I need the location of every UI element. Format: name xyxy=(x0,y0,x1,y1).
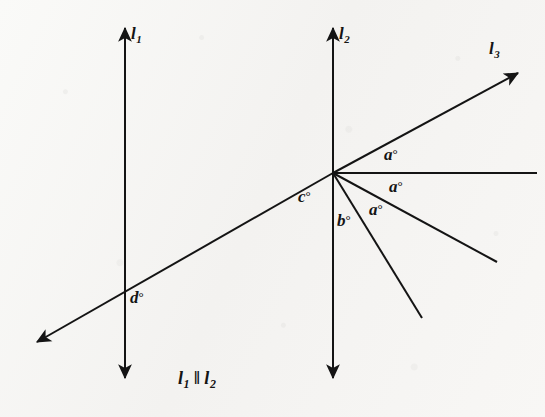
angle-a-middle-letter: a xyxy=(389,177,398,196)
l2-label-sub: 2 xyxy=(344,33,350,45)
geometry-figure: l1 l2 l3 a° a° a° b° c° d° l1‖l2 xyxy=(0,0,545,417)
degree-symbol: ° xyxy=(378,201,383,216)
degree-symbol: ° xyxy=(398,178,403,193)
angle-b-letter: b xyxy=(337,211,346,230)
angle-a-middle-label: a° xyxy=(389,178,403,195)
angle-a-upper-letter: a xyxy=(384,145,393,164)
angle-c-label: c° xyxy=(298,188,311,205)
angle-b-label: b° xyxy=(337,212,351,229)
ray-lower-steep xyxy=(333,173,422,318)
l3-label: l3 xyxy=(489,40,500,60)
l1-label: l1 xyxy=(131,25,142,45)
angle-d-label: d° xyxy=(130,289,144,306)
l3-label-sub: 3 xyxy=(494,48,500,60)
degree-symbol: ° xyxy=(306,188,311,203)
ray-lower-shallow xyxy=(333,173,497,262)
parallel-caption: l1‖l2 xyxy=(178,368,216,392)
caption-right-sub: 2 xyxy=(210,377,217,391)
geometry-canvas xyxy=(0,0,545,417)
degree-symbol: ° xyxy=(139,289,144,304)
transversal-lower-left xyxy=(37,173,333,342)
ray-l3 xyxy=(333,73,518,173)
angle-a-upper-label: a° xyxy=(384,146,398,163)
degree-symbol: ° xyxy=(393,146,398,161)
l2-label: l2 xyxy=(339,25,350,45)
angle-c-letter: c xyxy=(298,187,306,206)
caption-left-sub: 1 xyxy=(184,377,191,391)
degree-symbol: ° xyxy=(346,212,351,227)
angle-a-lower-label: a° xyxy=(369,201,383,218)
angle-a-lower-letter: a xyxy=(369,200,378,219)
parallel-symbol: ‖ xyxy=(194,368,200,388)
l1-label-sub: 1 xyxy=(136,33,142,45)
angle-d-letter: d xyxy=(130,288,139,307)
